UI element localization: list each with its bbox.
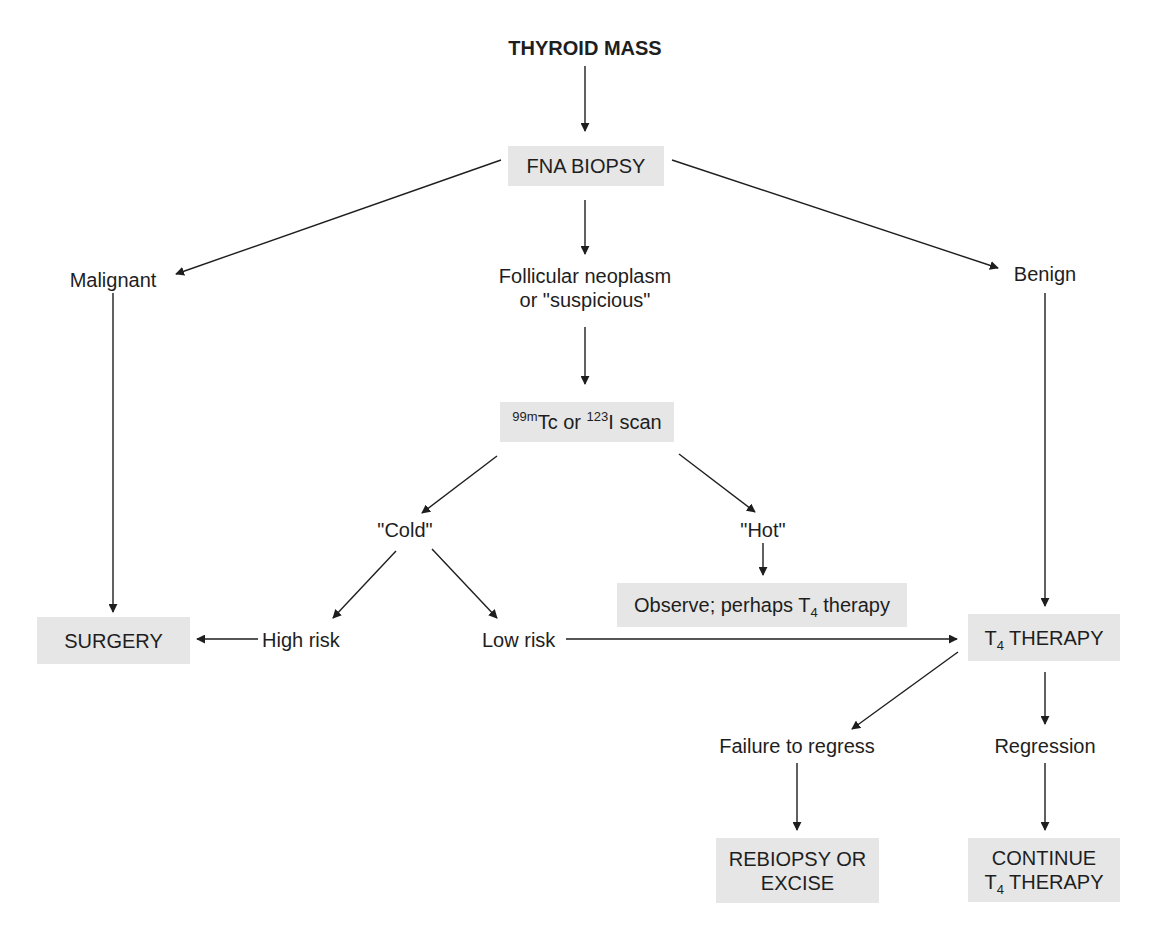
hot-label: "Hot" — [723, 518, 803, 542]
follicular-line2: or "suspicious" — [480, 288, 690, 312]
edge-scan-to-cold — [422, 456, 497, 513]
edge-scan-to-hot — [679, 454, 755, 512]
continue-line2: T4 THERAPY — [984, 870, 1103, 894]
edge-fna-to-malignant — [176, 160, 501, 274]
edge-cold-to-lowrisk — [432, 549, 497, 618]
high-risk-label: High risk — [262, 628, 352, 652]
continue-line1: CONTINUE — [992, 846, 1096, 870]
cold-label: "Cold" — [360, 518, 450, 542]
follicular-neoplasm-label: Follicular neoplasm or "suspicious" — [480, 264, 690, 312]
t4-therapy-box: T4 THERAPY — [968, 614, 1120, 661]
flowchart-edges — [0, 0, 1156, 936]
regression-label: Regression — [990, 734, 1100, 758]
t4-therapy-label: T4 THERAPY — [984, 626, 1103, 650]
edge-t4-to-failure — [852, 652, 958, 729]
observe-box: Observe; perhaps T4 therapy — [617, 583, 907, 627]
thyroid-mass-title: THYROID MASS — [505, 36, 665, 60]
benign-label: Benign — [995, 262, 1095, 286]
fna-biopsy-label: FNA BIOPSY — [527, 154, 646, 178]
low-risk-label: Low risk — [482, 628, 566, 652]
edge-fna-to-benign — [672, 160, 998, 268]
follicular-line1: Follicular neoplasm — [480, 264, 690, 288]
malignant-label: Malignant — [48, 268, 178, 292]
surgery-label: SURGERY — [64, 629, 163, 653]
scan-label: 99mTc or 123I scan — [512, 410, 661, 434]
scan-box: 99mTc or 123I scan — [500, 402, 674, 442]
rebiopsy-box: REBIOPSY OR EXCISE — [716, 838, 879, 903]
fna-biopsy-box: FNA BIOPSY — [508, 146, 664, 186]
surgery-box: SURGERY — [37, 617, 190, 664]
rebiopsy-line1: REBIOPSY OR — [729, 847, 866, 871]
rebiopsy-line2: EXCISE — [761, 871, 834, 895]
edge-cold-to-highrisk — [333, 551, 396, 618]
continue-therapy-box: CONTINUE T4 THERAPY — [968, 838, 1120, 902]
failure-to-regress-label: Failure to regress — [712, 734, 882, 758]
observe-label: Observe; perhaps T4 therapy — [634, 593, 890, 617]
